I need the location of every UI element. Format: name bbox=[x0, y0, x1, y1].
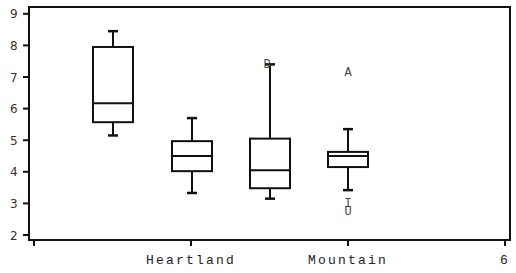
y-tick-label: 4 bbox=[10, 165, 18, 179]
y-tick-label: 3 bbox=[10, 197, 18, 211]
box-3: D bbox=[250, 58, 290, 198]
box-4: AIU bbox=[328, 66, 368, 219]
x-axis: HeartlandMountain6 bbox=[34, 240, 510, 268]
y-tick-label: 2 bbox=[10, 229, 18, 243]
y-tick-label: 8 bbox=[10, 39, 18, 53]
outlier-label: D bbox=[263, 58, 270, 72]
x-tick-label: Mountain bbox=[308, 253, 388, 268]
box-series: DAIU bbox=[93, 31, 368, 219]
iqr-box bbox=[93, 47, 133, 122]
outlier-label: A bbox=[344, 66, 352, 80]
y-tick-label: 6 bbox=[10, 102, 18, 116]
x-tick-label: Heartland bbox=[146, 253, 236, 268]
box-2 bbox=[172, 118, 212, 193]
iqr-box bbox=[250, 139, 290, 189]
box-1 bbox=[93, 31, 133, 135]
x-tick-label: 6 bbox=[500, 253, 510, 268]
y-tick-label: 9 bbox=[10, 7, 18, 21]
outlier-label: U bbox=[344, 205, 351, 219]
y-tick-label: 7 bbox=[10, 71, 18, 85]
iqr-box bbox=[328, 152, 368, 167]
y-axis: 23456789 bbox=[10, 7, 29, 242]
box-plot-chart: 23456789 HeartlandMountain6 DAIU bbox=[0, 0, 516, 273]
y-tick-label: 5 bbox=[10, 134, 18, 148]
